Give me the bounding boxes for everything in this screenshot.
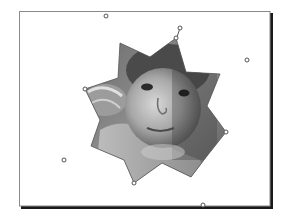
- resize-handle-icon[interactable]: [104, 14, 108, 18]
- rotation-handle-icon[interactable]: [178, 26, 182, 30]
- resize-handle-icon[interactable]: [245, 58, 249, 62]
- right-eye: [179, 90, 190, 97]
- left-eye: [141, 84, 153, 91]
- vertex-handle-icon[interactable]: [83, 87, 87, 91]
- vertex-handle-icon[interactable]: [132, 181, 136, 185]
- vertex-handle-icon[interactable]: [174, 36, 178, 40]
- vertex-handle-icon[interactable]: [224, 130, 228, 134]
- resize-handle-icon[interactable]: [201, 203, 205, 207]
- editing-canvas[interactable]: [0, 0, 287, 218]
- resize-handle-icon[interactable]: [62, 158, 66, 162]
